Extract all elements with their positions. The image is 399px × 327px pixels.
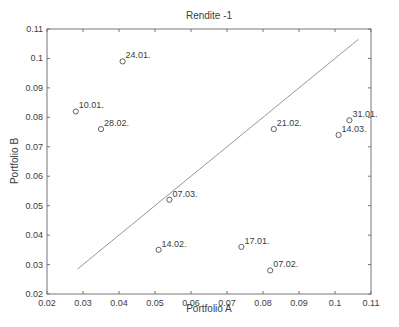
scatter-plot-canvas: 0.020.030.040.050.060.070.080.090.10.110… [0,0,399,327]
y-tick-label: 0.06 [25,171,43,181]
data-point-marker [73,109,78,114]
y-tick-label: 0.03 [25,260,43,270]
data-point-label: 31.01. [352,109,377,119]
data-point-label: 14.03. [342,124,367,134]
y-tick-label: 0.11 [26,24,43,34]
matlab-figure-window: Rendite -1 0.020.030.040.050.060.070.080… [0,0,399,327]
y-axis-label: Portfolio B [9,138,20,184]
data-point-label: 14.02. [162,239,187,249]
y-tick-label: 0.09 [25,83,43,93]
data-point-marker [336,132,341,137]
data-point-label: 28.02. [104,118,129,128]
y-tick-label: 0.05 [25,201,43,211]
y-tick-label: 0.1 [30,53,43,63]
data-point-label: 21.02. [277,118,302,128]
data-point-label: 10.01. [79,100,104,110]
data-point-marker [120,59,125,64]
y-tick-label: 0.04 [25,230,43,240]
y-tick-label: 0.02 [25,289,43,299]
data-point-marker [167,197,172,202]
data-point-label: 07.03. [172,189,197,199]
data-point-marker [268,268,273,273]
identity-line [78,39,359,269]
data-point-marker [156,247,161,252]
data-point-label: 07.02. [273,259,298,269]
data-point-label: 24.01. [126,50,151,60]
data-point-marker [347,118,352,123]
data-point-marker [239,244,244,249]
x-axis-label: Portfolio A [47,303,371,314]
data-point-label: 17.01. [244,236,269,246]
y-tick-label: 0.07 [25,142,43,152]
y-tick-label: 0.08 [25,112,43,122]
data-point-marker [271,127,276,132]
data-point-marker [98,127,103,132]
